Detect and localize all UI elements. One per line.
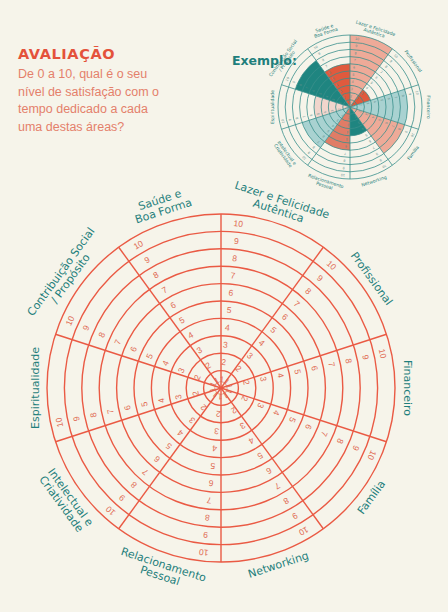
scale-number: 5 (210, 461, 216, 471)
scale-number: 4 (160, 359, 171, 368)
scale-number: 4 (175, 428, 185, 439)
scale-number: 10 (63, 314, 76, 327)
category-label-text: Financeiro (401, 360, 414, 416)
scale-number: 10 (198, 547, 209, 558)
scale-number: 10 (377, 348, 389, 360)
category-label-text: Família (355, 478, 388, 517)
scale-number: 7 (319, 430, 330, 439)
category-label[interactable]: Contribuição Social/ Propósito (25, 225, 98, 318)
scale-number: 6 (303, 423, 314, 432)
life-wheel[interactable]: 1234567891012345678910123456789101234567… (0, 0, 448, 612)
scale-number: 8 (88, 412, 99, 419)
scale-number: 7 (230, 270, 236, 280)
scale-number: 10 (53, 416, 65, 428)
scale-number: 9 (360, 354, 371, 361)
category-label[interactable]: Espiritualidade (29, 347, 42, 429)
scale-number: 10 (233, 218, 244, 229)
scale-number: 2 (229, 405, 238, 416)
category-label[interactable]: Profissional (348, 250, 395, 308)
scale-number: 7 (160, 284, 169, 295)
scale-number: 2 (215, 409, 221, 419)
scale-number: 6 (309, 365, 320, 372)
scale-number: 2 (203, 360, 212, 371)
scale-number: 5 (268, 325, 278, 336)
scale-number: 7 (105, 408, 116, 415)
scale-number: 6 (228, 288, 234, 298)
scale-number: 2 (198, 402, 208, 413)
category-label[interactable]: Networking (247, 549, 311, 581)
scale-number: 7 (140, 467, 150, 478)
category-label-text: Espiritualidade (29, 347, 42, 429)
scale-number: 4 (211, 443, 217, 453)
scale-number: 7 (292, 299, 302, 310)
scale-number: 5 (144, 352, 155, 361)
scale-number: 8 (128, 480, 138, 491)
scale-number: 6 (122, 404, 133, 411)
category-label[interactable]: Saúde eBoa Forma (133, 187, 193, 226)
category-label[interactable]: Lazer e FelicidadeAutêntica (233, 179, 331, 226)
scale-number: 7 (326, 361, 337, 368)
scale-number: 8 (96, 330, 107, 339)
scale-number: 10 (132, 238, 145, 252)
scale-number: 6 (128, 345, 139, 354)
scale-number: 8 (335, 437, 346, 446)
scale-number: 10 (297, 524, 310, 538)
scale-number: 6 (264, 465, 273, 476)
scale-number: 6 (280, 312, 290, 323)
scale-number: 6 (152, 454, 162, 465)
scale-number: 2 (233, 363, 243, 374)
scale-number: 10 (365, 449, 378, 462)
scale-number: 5 (163, 441, 173, 452)
scale-number: 2 (241, 379, 252, 386)
category-label[interactable]: Intelectual eCriatividade (36, 466, 96, 535)
scale-number: 3 (213, 426, 219, 436)
category-label[interactable]: Família (355, 478, 388, 517)
scale-number: 4 (271, 409, 282, 418)
scale-number: 6 (208, 478, 214, 488)
scale-number: 6 (169, 299, 178, 310)
scale-number: 4 (275, 372, 286, 379)
scale-number: 5 (226, 305, 232, 315)
scale-number: 7 (112, 338, 123, 347)
scale-number: 3 (258, 376, 269, 383)
scale-number: 4 (257, 337, 267, 348)
scale-number: 9 (350, 444, 361, 453)
scale-number: 9 (290, 511, 299, 522)
category-label[interactable]: RelacionamentoPessoal (119, 545, 208, 588)
scale-number: 9 (315, 273, 325, 284)
scale-number: 4 (156, 397, 167, 404)
category-label[interactable]: Financeiro (401, 360, 414, 416)
scale-number: 2 (192, 373, 203, 382)
scale-number: 9 (71, 415, 82, 422)
scale-number: 4 (186, 330, 195, 341)
scale-number: 7 (206, 495, 212, 505)
category-label-text: Networking (247, 549, 311, 581)
scale-number: 9 (80, 323, 91, 332)
scale-number: 5 (255, 450, 264, 461)
scale-number: 9 (117, 492, 127, 503)
scale-number: 8 (204, 513, 210, 523)
category-label-text: Profissional (348, 250, 395, 308)
scale-number: 2 (190, 390, 201, 397)
scale-number: 8 (151, 269, 160, 280)
scale-number: 5 (139, 401, 150, 408)
scale-number: 9 (142, 254, 151, 265)
scale-number: 10 (103, 504, 117, 518)
scale-number: 2 (239, 394, 250, 403)
scale-number: 4 (247, 435, 256, 446)
scale-number: 10 (325, 258, 339, 272)
scale-number: 8 (281, 496, 290, 507)
scale-number: 8 (232, 253, 238, 263)
scale-number: 3 (173, 393, 184, 400)
scale-number: 4 (224, 322, 230, 332)
scale-number: 8 (303, 286, 313, 297)
scale-number: 9 (202, 530, 208, 540)
scale-number: 9 (234, 236, 240, 246)
scale-number: 7 (273, 480, 282, 491)
scale-number: 3 (223, 340, 229, 350)
category-label-text: Contribuição Social (25, 225, 98, 318)
scale-number: 2 (221, 357, 227, 367)
scale-number: 5 (292, 368, 303, 375)
scale-number: 8 (343, 358, 354, 365)
scale-number: 5 (177, 315, 186, 326)
